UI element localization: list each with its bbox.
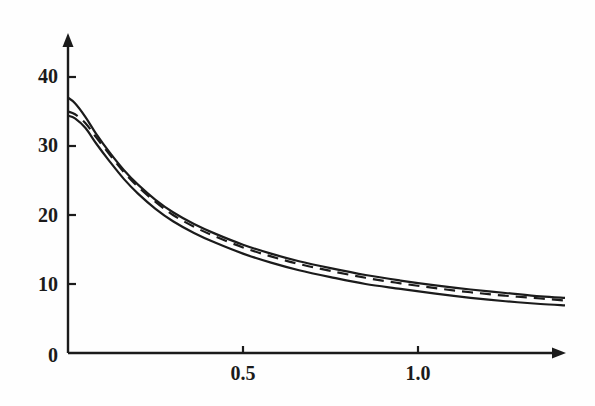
ticks-layer bbox=[68, 77, 418, 353]
x-axis-arrow-head bbox=[552, 348, 566, 359]
y-tick-label-40: 40 bbox=[28, 66, 58, 86]
curves-layer bbox=[68, 98, 565, 306]
series-lower-solid-curve bbox=[68, 116, 565, 306]
x-tick-label-0-5: 0.5 bbox=[218, 363, 268, 383]
y-tick-label-30: 30 bbox=[28, 135, 58, 155]
x-tick-label-1-0: 1.0 bbox=[393, 363, 443, 383]
chart-container: 40 30 20 10 0 0.5 1.0 bbox=[0, 0, 595, 406]
y-axis-arrow-head bbox=[63, 33, 74, 47]
y-tick-label-20: 20 bbox=[28, 205, 58, 225]
series-middle-dashed-curve bbox=[68, 112, 565, 301]
y-tick-label-10: 10 bbox=[28, 274, 58, 294]
chart-plot-area bbox=[0, 0, 595, 406]
y-tick-label-0: 0 bbox=[28, 345, 58, 365]
axes-layer bbox=[63, 33, 567, 359]
